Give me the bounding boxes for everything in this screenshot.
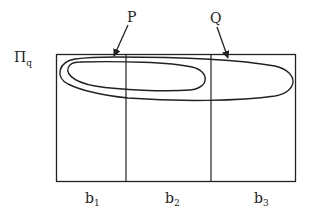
row-label-sub: q [26,58,32,68]
diagram-canvas: P Q Πq b1 b2 b3 [0,0,312,217]
pointer-q-label: Q [210,10,221,26]
row-label: Πq [14,49,32,68]
pointer-q-arrow [217,27,228,58]
loop-p [68,62,206,91]
column-label-b3: b3 [254,190,269,208]
row-label-main: Π [14,49,26,65]
column-label-b1: b1 [85,190,100,208]
pointer-p-label: P [127,9,136,25]
column-label-b2: b2 [165,190,180,208]
outer-box [57,55,296,182]
loop-q [60,57,293,100]
pointer-p-arrow [114,25,128,56]
